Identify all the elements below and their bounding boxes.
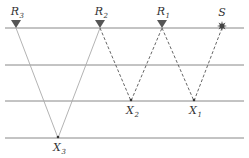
reflection-marker xyxy=(130,99,133,102)
source-label: S xyxy=(218,6,226,19)
reflection-label-x1-subscript: 1 xyxy=(198,111,202,119)
reflection-label-x3-subscript: 3 xyxy=(62,148,67,156)
receiver-label-r1: R xyxy=(156,5,165,18)
ray-path-r3-r2 xyxy=(16,28,100,138)
reflection-marker xyxy=(57,136,60,139)
reflection-label-x2-subscript: 2 xyxy=(134,111,140,119)
receiver-triangle-icon xyxy=(95,20,105,28)
receiver-label-r3-subscript: 3 xyxy=(20,12,25,20)
seismic-raypath-diagram: R3R2R1SX3X2X1 xyxy=(0,0,249,158)
diagram-svg: R3R2R1SX3X2X1 xyxy=(0,0,249,158)
source-starburst-icon xyxy=(217,21,227,31)
receiver-label-r1-subscript: 1 xyxy=(166,12,170,20)
receiver-label-r3: R xyxy=(10,5,19,18)
reflection-marker xyxy=(193,99,196,102)
receiver-label-r2-subscript: 2 xyxy=(103,12,109,20)
receiver-triangle-icon xyxy=(157,20,167,28)
receiver-label-r2: R xyxy=(94,5,103,18)
receiver-triangle-icon xyxy=(11,20,21,28)
